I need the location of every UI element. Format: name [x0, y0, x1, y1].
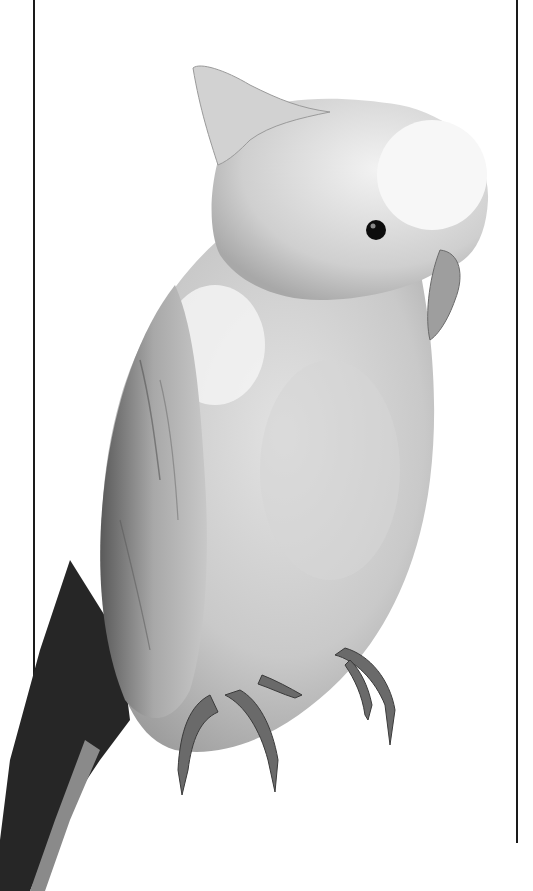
eye: [366, 220, 386, 240]
wing: [100, 285, 207, 718]
cockatoo-photo: [0, 0, 533, 891]
